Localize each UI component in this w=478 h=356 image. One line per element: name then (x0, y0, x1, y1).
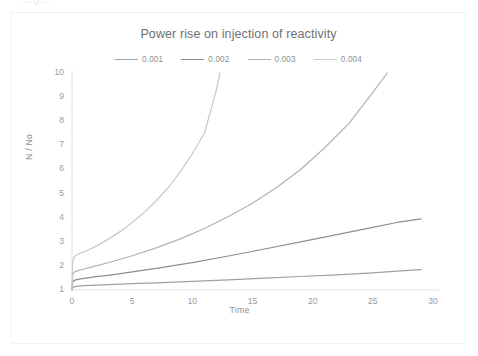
y-tick-label: 8 (42, 115, 64, 125)
y-tick-label: 3 (42, 236, 64, 246)
series-line-0.004 (72, 73, 220, 290)
y-tick-label: 6 (42, 163, 64, 173)
y-tick-label: 9 (42, 91, 64, 101)
y-tick-label: 1 (42, 284, 64, 294)
plot-area: 12345678910051015202530 (12, 13, 467, 345)
cropped-header-text: …g… (22, 0, 51, 5)
y-axis-label: N / No (24, 134, 34, 160)
series-line-0.003 (72, 73, 387, 290)
y-tick-label: 10 (42, 67, 64, 77)
y-tick-label: 7 (42, 139, 64, 149)
chart-container: Power rise on injection of reactivity 0.… (11, 12, 466, 344)
y-tick-label: 5 (42, 188, 64, 198)
x-axis-label: Time (12, 305, 467, 315)
cropped-header-strip: …g… (0, 0, 478, 12)
y-tick-label: 4 (42, 212, 64, 222)
y-tick-label: 2 (42, 260, 64, 270)
